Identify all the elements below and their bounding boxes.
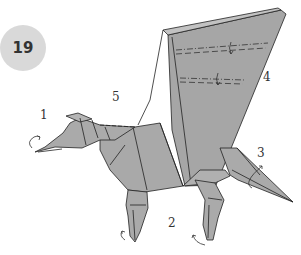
- origami-pegasus-figure: [0, 0, 301, 255]
- rotate-arrow-icon: [121, 231, 125, 240]
- label-1: 1: [40, 108, 48, 122]
- label-2: 2: [168, 216, 176, 230]
- rotate-arrow-icon: [29, 136, 40, 148]
- rotate-arrow-icon: [192, 235, 205, 245]
- label-3: 3: [257, 146, 265, 160]
- label-5: 5: [112, 90, 120, 104]
- front-leg: [126, 190, 148, 242]
- hind-leg: [195, 180, 224, 240]
- label-4: 4: [263, 70, 271, 84]
